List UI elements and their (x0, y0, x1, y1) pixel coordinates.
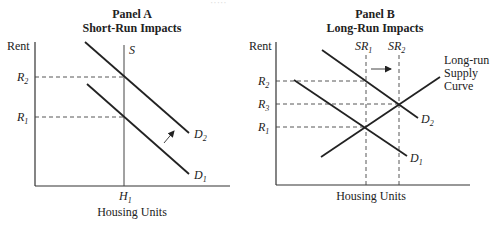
panel-b-subtitle: Long-Run Impacts (326, 21, 423, 35)
panel-a-d2-label: D2 (193, 127, 207, 143)
panel-a-r2-label: R2 (16, 70, 28, 86)
panel-a-shift-arrow-icon (164, 131, 174, 143)
panel-a-x-axis-label: Housing Units (97, 205, 167, 219)
housing-market-diagram: ····· Panel A Short-Run Impacts Rent S R… (0, 0, 492, 229)
panel-a: Panel A Short-Run Impacts Rent S R2 R1 D… (7, 7, 230, 219)
panel-b-y-axis-label: Rent (249, 39, 272, 53)
panel-b-lrs-label-line3: Curve (444, 79, 473, 93)
panel-a-demand-d1 (87, 84, 189, 174)
panel-b-r3-label: R3 (257, 97, 269, 113)
panel-b-d2-label: D2 (420, 112, 434, 128)
panel-b-r1-label: R1 (257, 120, 269, 136)
panel-b-lrs-label-line2: Supply (444, 66, 478, 80)
cutoff-header-text: ····· (210, 0, 227, 8)
panel-b-r2-label: R2 (257, 74, 269, 90)
panel-a-h1-label: H1 (118, 189, 132, 205)
panel-b-title: Panel B (355, 7, 395, 21)
panel-b: Panel B Long-Run Impacts Rent SR1 SR2 R2… (249, 7, 489, 203)
panel-b-sr2-label: SR2 (388, 39, 405, 55)
panel-a-y-axis-label: Rent (7, 39, 30, 53)
panel-a-demand-d2 (85, 42, 189, 133)
panel-a-supply-label: S (129, 43, 135, 57)
panel-b-demand-d1 (294, 80, 407, 156)
panel-b-sr1-label: SR1 (355, 39, 372, 55)
panel-a-subtitle: Short-Run Impacts (82, 21, 181, 35)
panel-a-r1-label: R1 (16, 110, 28, 126)
panel-b-d1-label: D1 (409, 151, 423, 167)
panel-a-title: Panel A (112, 7, 152, 21)
panel-a-d1-label: D1 (193, 168, 207, 184)
panel-b-x-axis-label: Housing Units (336, 189, 406, 203)
panel-b-lrs-label-line1: Long-run (444, 53, 489, 67)
